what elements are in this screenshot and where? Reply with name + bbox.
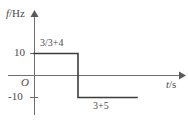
x-axis-arrow-icon [179,72,186,80]
lower-segment-label: 3+5 [93,101,109,111]
origin-label: O [21,77,29,88]
y-tick-label-negative: -10 [8,91,23,102]
y-axis-label: f/Hz [6,8,25,19]
y-tick-label-positive: 10 [14,47,25,58]
waveform-figure: f/Hz t/s 10 -10 O 3/3+4 3+5 [0,0,188,124]
x-axis-label: t/s [166,79,176,90]
upper-segment-label: 3/3+4 [40,38,63,48]
y-axis-arrow-icon [31,10,39,17]
y-axis-unit: /Hz [9,7,25,19]
x-axis-unit: /s [169,78,176,90]
